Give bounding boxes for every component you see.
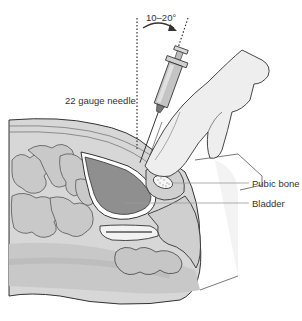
- hand: [145, 50, 269, 177]
- angle-arrow-icon: [143, 23, 177, 31]
- thigh-outline: [195, 154, 262, 290]
- needle-axis-line: [178, 18, 188, 48]
- suprapubic-aspiration-diagram: [0, 0, 302, 321]
- bladder-label: Bladder: [252, 199, 285, 209]
- angle-label: 10–20°: [146, 13, 176, 23]
- needle-label: 22 gauge needle: [65, 96, 136, 106]
- pubic-bone-label: Pubic bone: [252, 179, 300, 189]
